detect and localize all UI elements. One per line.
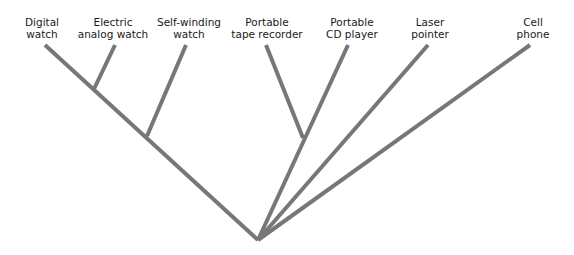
branch-portable-tape-recorder [266, 45, 303, 138]
branch-self-winding-watch [147, 45, 186, 136]
branch-laser-pointer [258, 45, 428, 240]
taxon-label-portable-cd-player: Portable CD player [326, 16, 378, 40]
taxon-label-line: pointer [411, 28, 449, 40]
taxon-label-line: Portable [326, 16, 378, 28]
taxon-label-cell-phone: Cell phone [517, 16, 550, 40]
taxon-label-line: watch [157, 28, 221, 40]
cladogram-diagram: Digital watch Electric analog watch Self… [0, 0, 574, 255]
taxon-label-self-winding-watch: Self-winding watch [157, 16, 221, 40]
taxon-label-line: Self-winding [157, 16, 221, 28]
branch-digital-watch [45, 45, 258, 240]
taxon-label-line: phone [517, 28, 550, 40]
taxon-label-line: Laser [411, 16, 449, 28]
taxon-label-digital-watch: Digital watch [25, 16, 59, 40]
branch-electric-analog-watch [94, 45, 115, 89]
taxon-label-electric-analog-watch: Electric analog watch [78, 16, 148, 40]
taxon-label-line: analog watch [78, 28, 148, 40]
taxon-label-line: Portable [231, 16, 302, 28]
taxon-label-line: Digital [25, 16, 59, 28]
taxon-label-laser-pointer: Laser pointer [411, 16, 449, 40]
branch-cell-phone [258, 45, 530, 240]
taxon-label-line: tape recorder [231, 28, 302, 40]
taxon-label-line: Cell [517, 16, 550, 28]
taxon-label-portable-tape-recorder: Portable tape recorder [231, 16, 302, 40]
taxon-label-line: watch [25, 28, 59, 40]
taxon-label-line: Electric [78, 16, 148, 28]
branch-portable-cd-player [258, 45, 348, 240]
taxon-label-line: CD player [326, 28, 378, 40]
